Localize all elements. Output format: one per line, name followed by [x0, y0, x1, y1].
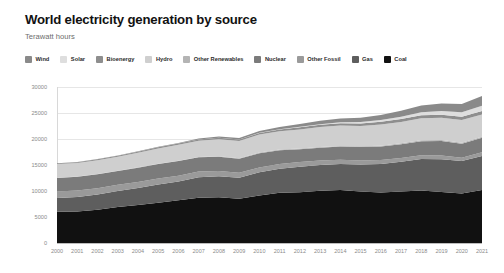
legend-swatch-icon [352, 56, 359, 63]
x-axis-tick-label: 2001 [71, 248, 83, 255]
x-axis-tick-label: 2017 [395, 248, 407, 255]
legend-swatch-icon [96, 56, 103, 63]
legend-swatch-icon [183, 56, 190, 63]
page-title: World electricity generation by source [25, 12, 485, 27]
legend-swatch-icon [254, 56, 261, 63]
legend-item-other-renewables[interactable]: Other Renewables [183, 56, 243, 63]
x-axis-tick-label: 2004 [132, 248, 144, 255]
x-axis-tick-label: 2014 [334, 248, 346, 255]
y-axis-tick-label: 25000 [31, 110, 47, 116]
legend-item-label: Hydro [156, 56, 172, 63]
legend-item-other-fossil[interactable]: Other Fossil [297, 56, 341, 63]
y-axis-tick-label: 5000 [35, 214, 47, 220]
y-axis: 050001000015000200002500030000 [0, 78, 52, 246]
legend-item-label: Coal [394, 56, 406, 63]
x-axis-tick-label: 2009 [233, 248, 245, 255]
x-axis-tick-label: 2006 [172, 248, 184, 255]
legend-item-label: Gas [362, 56, 373, 63]
legend-swatch-icon [384, 56, 391, 63]
x-axis: 2000200120022003200420052006200720082009… [57, 248, 482, 260]
legend-item-label: Other Fossil [307, 56, 340, 63]
x-axis-tick-label: 2010 [253, 248, 265, 255]
legend-swatch-icon [25, 56, 32, 63]
legend-swatch-icon [297, 56, 304, 63]
legend-item-wind[interactable]: Wind [25, 56, 49, 63]
legend-item-label: Solar [71, 56, 85, 63]
y-axis-tick-label: 30000 [31, 84, 47, 90]
x-axis-tick-label: 2000 [51, 248, 63, 255]
x-axis-tick-label: 2019 [435, 248, 447, 255]
x-axis-tick-label: 2013 [314, 248, 326, 255]
x-axis-tick-label: 2005 [152, 248, 164, 255]
legend-swatch-icon [145, 56, 152, 63]
legend-item-solar[interactable]: Solar [60, 56, 85, 63]
x-axis-tick-label: 2018 [415, 248, 427, 255]
legend-item-label: Bioenergy [107, 56, 135, 63]
legend-item-coal[interactable]: Coal [384, 56, 407, 63]
x-axis-tick-label: 2012 [294, 248, 306, 255]
x-axis-tick-label: 2002 [91, 248, 103, 255]
chart-subtitle: Terawatt hours [25, 32, 485, 41]
legend-item-hydro[interactable]: Hydro [145, 56, 172, 63]
stacked-area-series [57, 78, 482, 273]
legend-swatch-icon [60, 56, 67, 63]
chart-page: World electricity generation by source T… [0, 0, 504, 273]
legend-item-label: Nuclear [265, 56, 286, 63]
x-axis-tick-label: 2011 [274, 248, 286, 255]
x-axis-tick-label: 2015 [354, 248, 366, 255]
legend-item-label: Other Renewables [194, 56, 244, 63]
chart-legend: WindSolarBioenergyHydroOther RenewablesN… [25, 54, 418, 65]
y-axis-tick-label: 20000 [31, 136, 47, 142]
legend-item-bioenergy[interactable]: Bioenergy [96, 56, 134, 63]
legend-item-nuclear[interactable]: Nuclear [254, 56, 285, 63]
y-axis-tick-label: 10000 [31, 188, 47, 194]
chart-header: World electricity generation by source T… [25, 12, 485, 41]
x-axis-tick-label: 2007 [193, 248, 205, 255]
y-axis-tick-label: 15000 [31, 162, 47, 168]
x-axis-tick-label: 2016 [375, 248, 387, 255]
x-axis-tick-label: 2020 [456, 248, 468, 255]
plot-area: 050001000015000200002500030000 200020012… [0, 78, 504, 273]
legend-item-label: Wind [36, 56, 50, 63]
x-axis-tick-label: 2008 [213, 248, 225, 255]
legend-item-gas[interactable]: Gas [352, 56, 373, 63]
x-axis-tick-label: 2003 [112, 248, 124, 255]
y-axis-tick-label: 0 [44, 240, 47, 246]
x-axis-tick-label: 2021 [476, 248, 488, 255]
